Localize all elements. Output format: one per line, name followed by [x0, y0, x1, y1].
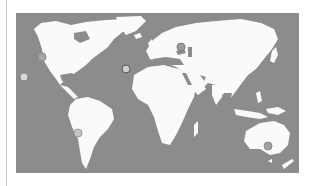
indonesia: [234, 109, 268, 119]
north-america: [34, 19, 136, 85]
philippines: [256, 91, 262, 103]
map-marker-caucasus[interactable]: [177, 43, 186, 52]
new-guinea: [266, 107, 286, 115]
central-america: [60, 85, 78, 99]
india: [212, 85, 224, 105]
caspian-sea: [188, 47, 192, 57]
map-marker-atlantic-canary[interactable]: [122, 65, 131, 74]
left-divider: [6, 0, 7, 186]
continents: [16, 13, 299, 173]
madagascar: [194, 121, 198, 137]
world-map[interactable]: [16, 13, 299, 173]
map-marker-us-west-coast[interactable]: [38, 53, 47, 62]
tasmania: [268, 159, 272, 163]
map-marker-se-australia[interactable]: [264, 142, 273, 151]
map-marker-pacific[interactable]: [20, 73, 29, 82]
bay-of-bengal: [224, 93, 232, 103]
iceland: [134, 33, 142, 39]
map-marker-chile[interactable]: [74, 129, 83, 138]
new-zealand: [282, 159, 294, 169]
